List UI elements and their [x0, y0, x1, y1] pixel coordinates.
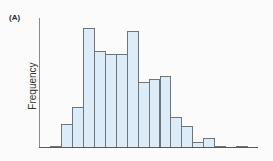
x-axis-line	[39, 147, 258, 148]
histogram-plot	[0, 0, 273, 161]
